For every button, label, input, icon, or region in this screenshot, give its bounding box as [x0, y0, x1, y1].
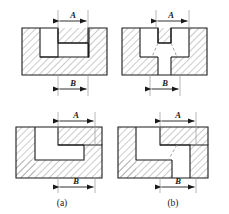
dimension-label-A: A [72, 110, 79, 120]
caption-b: (b) [167, 198, 178, 209]
dimension-label-B: B [174, 176, 181, 186]
dimension-label-B: B [72, 176, 79, 186]
technical-drawing-figure: A B [0, 0, 229, 214]
dimension-label-A: A [167, 10, 174, 20]
top-left-section [22, 28, 107, 75]
dimension-label-B: B [69, 78, 76, 88]
dimension-label-B: B [161, 78, 168, 88]
dimension-label-A: A [174, 110, 181, 120]
caption-a: (a) [57, 198, 68, 209]
bottom-left-section [16, 127, 102, 178]
dimension-label-A: A [69, 10, 76, 20]
